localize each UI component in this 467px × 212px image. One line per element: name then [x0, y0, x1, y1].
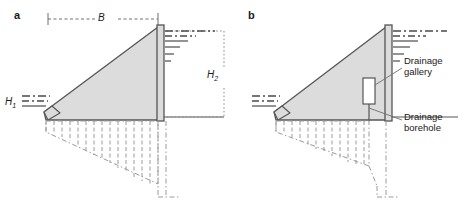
downstream-head-subscript: 2 [214, 75, 218, 82]
drainage-gallery-callout: Drainage gallery [404, 56, 443, 78]
panel-b: b [234, 0, 467, 212]
panel-b-drawing [234, 0, 467, 212]
figure-container: a [0, 0, 467, 212]
uplift-pressure-hatching-b [284, 121, 364, 166]
drainage-gallery-callout-line2: gallery [404, 67, 443, 78]
upstream-head-subscript: 1 [12, 102, 16, 109]
dam-crest-parapet-b [385, 25, 392, 121]
upstream-water-level [22, 96, 50, 106]
dam-body [44, 27, 158, 120]
base-width-label: B [98, 13, 105, 23]
uplift-relieved-tail-b [369, 121, 400, 197]
uplift-pressure-outline-b [276, 121, 369, 166]
downstream-head-label: H2 [207, 70, 218, 82]
panel-a: a [0, 0, 233, 212]
drainage-borehole-callout-line2: borehole [404, 123, 443, 134]
drainage-borehole-callout: Drainage borehole [404, 112, 443, 134]
upstream-water-level-b [252, 96, 280, 106]
upstream-head-label: H1 [5, 97, 16, 109]
dam-crest-parapet [157, 25, 164, 121]
panel-a-drawing [0, 0, 233, 212]
drainage-gallery-shape [363, 78, 375, 104]
downstream-water-level [165, 31, 215, 61]
uplift-downstream-tail [158, 121, 180, 197]
uplift-pressure-hatching [54, 121, 150, 186]
